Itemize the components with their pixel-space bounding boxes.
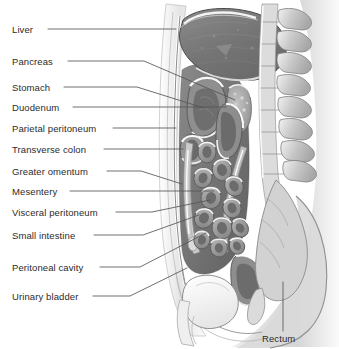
label-parietal-peritoneum: Parietal peritoneum <box>12 124 96 134</box>
label-peritoneal-cavity: Peritoneal cavity <box>12 263 83 273</box>
label-visceral-peritoneum: Visceral peritoneum <box>12 208 98 218</box>
label-duodenum: Duodenum <box>12 103 59 113</box>
label-small-intestine: Small intestine <box>12 231 75 241</box>
label-stomach: Stomach <box>12 83 50 93</box>
label-greater-omentum: Greater omentum <box>12 167 88 177</box>
label-liver: Liver <box>12 25 33 35</box>
label-urinary-bladder: Urinary bladder <box>12 292 78 302</box>
label-pancreas: Pancreas <box>12 57 53 67</box>
label-rectum: Rectum <box>262 334 295 344</box>
label-mesentery: Mesentery <box>12 187 57 197</box>
label-transverse-colon: Transverse colon <box>12 145 86 155</box>
figure-canvas: LiverPancreasStomachDuodenumParietal per… <box>0 0 339 349</box>
